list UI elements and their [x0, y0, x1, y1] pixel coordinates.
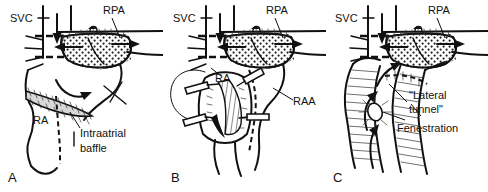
label-raa-b: RAA [293, 95, 316, 107]
label-svc-b: SVC [173, 12, 196, 24]
label-lateral-tunnel-line2: tunnel" [409, 103, 443, 115]
label-ra-b: RA [215, 72, 231, 84]
panel-b: SVC RPA RA RAA B [163, 0, 326, 192]
panel-letter-b: B [171, 170, 180, 185]
panel-a: SVC RPA RA Intraatrial baffle A [0, 0, 163, 192]
label-svc-a: SVC [10, 12, 33, 24]
label-intraatrial-baffle-line1: Intraatrial [80, 127, 126, 139]
figure-container: SVC RPA RA Intraatrial baffle A [0, 0, 488, 192]
label-rpa-b: RPA [266, 4, 288, 16]
panel-letter-a: A [8, 170, 17, 185]
panel-c: SVC RPA "Lateral tunnel" Fenestration C [325, 0, 488, 192]
label-ra-a: RA [33, 114, 49, 126]
label-rpa-c: RPA [428, 4, 450, 16]
label-fenestration: Fenestration [397, 122, 458, 134]
label-svc-c: SVC [335, 12, 358, 24]
label-lateral-tunnel-line1: "Lateral [409, 89, 447, 101]
panel-letter-c: C [333, 170, 342, 185]
label-rpa-a: RPA [103, 4, 125, 16]
label-intraatrial-baffle-line2: baffle [80, 142, 107, 154]
